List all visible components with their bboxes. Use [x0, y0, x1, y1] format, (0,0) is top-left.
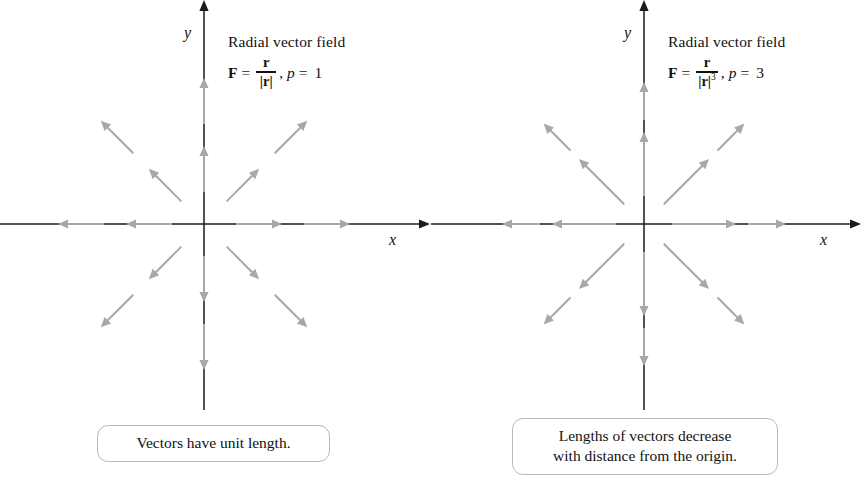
formula-p-value: 3 — [756, 64, 764, 82]
formula-comma: , — [279, 64, 283, 82]
field-annotation-p-3: Radial vector field F = r |r|3 , p = 3 — [668, 33, 785, 90]
formula-numerator: r — [702, 55, 712, 71]
formula-comma: , — [721, 64, 725, 82]
y-axis-arrowhead — [199, 0, 208, 11]
field-vector-arrow — [664, 159, 709, 204]
formula-vector-F: F — [228, 64, 237, 82]
formula-p-equals: = — [299, 64, 308, 82]
y-axis-label: y — [624, 25, 631, 41]
field-vector-arrow — [748, 219, 786, 228]
field-vector-arrow — [149, 247, 182, 280]
formula-numerator: r — [261, 55, 271, 71]
caption-box-p-1: Vectors have unit length. — [97, 425, 330, 462]
denominator-magnitude: |r| — [698, 73, 711, 89]
formula-p-symbol: p — [729, 64, 737, 82]
field-vector-arrow — [126, 219, 172, 228]
caption-text-line-2: with distance from the origin. — [527, 446, 763, 466]
field-vector-arrow — [199, 78, 208, 124]
field-vector-arrow — [664, 244, 709, 289]
field-vector-arrow — [58, 219, 104, 228]
field-vector-arrow — [236, 219, 282, 228]
field-annotation-title: Radial vector field — [668, 33, 785, 51]
denominator-magnitude: |r| — [260, 73, 273, 89]
field-formula: F = r |r| , p = 1 — [228, 56, 345, 90]
caption-box-p-3: Lengths of vectors decrease with distanc… — [512, 418, 778, 475]
x-axis-label: x — [820, 232, 827, 248]
formula-p-value: 1 — [315, 64, 323, 82]
field-vector-arrow — [199, 324, 208, 370]
field-vector-arrow — [149, 169, 182, 202]
field-vector-arrow — [718, 124, 745, 151]
formula-fraction: r |r|3 — [696, 55, 718, 89]
field-vector-arrow — [199, 146, 208, 192]
formula-denominator: |r|3 — [696, 73, 718, 90]
field-annotation-title: Radial vector field — [228, 33, 345, 51]
vector-field-plot-p-1 — [0, 0, 430, 410]
field-vector-arrow — [579, 244, 624, 289]
field-vector-arrow — [275, 121, 308, 154]
y-axis-label: y — [184, 25, 191, 41]
formula-denominator: |r| — [258, 73, 275, 90]
y-axis-arrowhead — [639, 0, 648, 11]
field-annotation-p-1: Radial vector field F = r |r| , p = 1 — [228, 33, 345, 90]
field-vector-arrow — [227, 247, 260, 280]
field-vector-arrow — [639, 252, 648, 316]
field-vector-arrow — [639, 82, 648, 120]
x-axis-arrowhead — [419, 219, 430, 228]
formula-fraction: r |r| — [256, 55, 276, 89]
vector-field-plot-p-3 — [431, 0, 861, 410]
formula-p-equals: = — [740, 64, 749, 82]
panel-p-1: y x Radial vector field F = r |r| , p = … — [0, 0, 430, 496]
field-vector-arrow — [718, 298, 745, 325]
radial-vector-field-figure: y x Radial vector field F = r |r| , p = … — [0, 0, 861, 496]
field-formula: F = r |r|3 , p = 3 — [668, 56, 785, 90]
field-vector-arrow — [199, 256, 208, 302]
field-vector-arrow — [502, 219, 540, 228]
field-vector-arrow — [672, 219, 736, 228]
formula-equals: = — [681, 64, 690, 82]
formula-p-symbol: p — [287, 64, 295, 82]
formula-equals: = — [241, 64, 250, 82]
x-axis-arrowhead — [850, 219, 861, 228]
field-vector-arrow — [552, 219, 616, 228]
caption-text: Vectors have unit length. — [112, 433, 315, 453]
field-vector-arrow — [227, 169, 260, 202]
field-vector-arrow — [639, 328, 648, 366]
field-vector-arrow — [639, 132, 648, 196]
field-vector-arrow — [275, 295, 308, 328]
field-vector-arrow — [544, 298, 571, 325]
field-vector-arrow — [101, 295, 134, 328]
x-axis-label: x — [389, 232, 396, 248]
field-vector-arrow — [304, 219, 350, 228]
field-vector-arrow — [101, 121, 134, 154]
denominator-exponent: 3 — [711, 72, 716, 82]
field-vector-arrow — [544, 124, 571, 151]
caption-text-line-1: Lengths of vectors decrease — [527, 426, 763, 446]
panel-p-3: y x Radial vector field F = r |r|3 , p =… — [431, 0, 861, 496]
formula-vector-F: F — [668, 64, 677, 82]
field-vector-arrow — [579, 159, 624, 204]
